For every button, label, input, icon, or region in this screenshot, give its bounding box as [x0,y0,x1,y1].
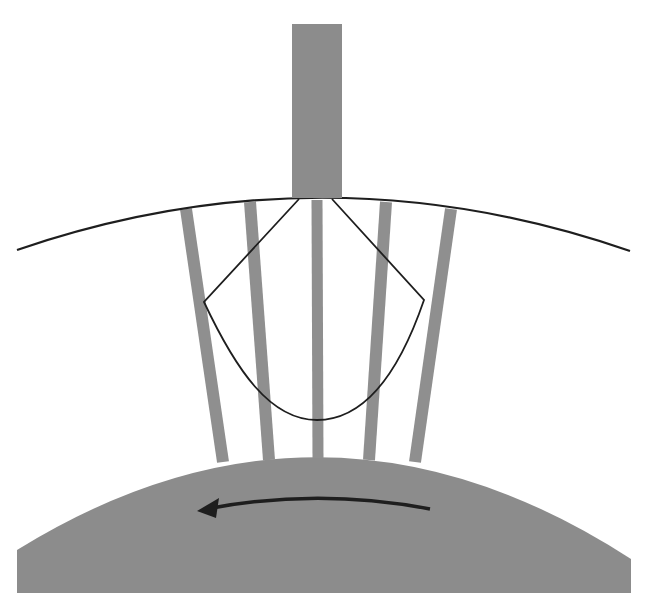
upper-arc-line [17,198,630,251]
stripe-1 [186,209,223,462]
stripe-4 [369,202,386,460]
diagram-svg [0,0,648,608]
rotating-drum [17,457,631,593]
top-block [292,24,342,198]
diagram-canvas [0,0,648,608]
stripe-5 [415,209,451,462]
